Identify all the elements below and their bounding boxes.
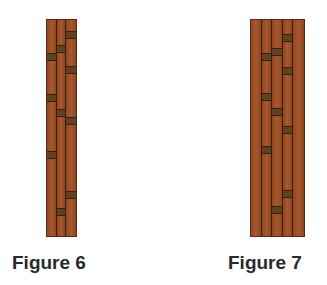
dark-joint-tile (272, 206, 282, 214)
wood-board (66, 20, 76, 236)
wood-strip-figure-7 (250, 19, 305, 237)
dark-joint-tile (47, 53, 56, 61)
dark-joint-tile (57, 45, 66, 53)
figure-label: Figure 7 (228, 252, 302, 274)
wood-strip-figure-6 (46, 19, 77, 237)
wood-board (251, 20, 262, 236)
wood-board (262, 20, 273, 236)
dark-joint-tile (283, 34, 293, 42)
dark-joint-tile (262, 53, 272, 61)
wood-board (272, 20, 283, 236)
dark-joint-tile (283, 126, 293, 134)
dark-joint-tile (57, 208, 66, 216)
dark-joint-tile (262, 93, 272, 101)
wood-board (283, 20, 294, 236)
dark-joint-tile (57, 109, 66, 117)
dark-joint-tile (66, 31, 76, 39)
dark-joint-tile (272, 48, 282, 56)
dark-joint-tile (283, 190, 293, 198)
dark-joint-tile (66, 117, 76, 125)
wood-board (47, 20, 57, 236)
wood-board (57, 20, 67, 236)
dark-joint-tile (66, 191, 76, 199)
dark-joint-tile (272, 108, 282, 116)
dark-joint-tile (66, 66, 76, 74)
dark-joint-tile (47, 151, 56, 159)
figure-label: Figure 6 (12, 252, 86, 274)
wood-board (293, 20, 304, 236)
dark-joint-tile (283, 67, 293, 75)
dark-joint-tile (47, 94, 56, 102)
dark-joint-tile (262, 146, 272, 154)
